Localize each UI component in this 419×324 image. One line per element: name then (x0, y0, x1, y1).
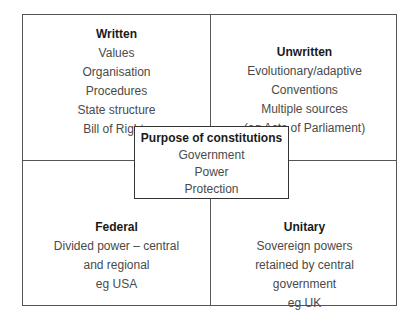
quadrant-unitary-line-3: government (217, 275, 392, 294)
quadrant-written-line-4: State structure (29, 101, 204, 120)
quadrant-unitary-heading: Unitary (217, 218, 392, 237)
quadrant-federal-line-2: and regional (29, 256, 204, 275)
center-box-heading: Purpose of constitutions (135, 130, 288, 147)
quadrant-unwritten-heading: Unwritten (217, 43, 392, 62)
quadrant-unwritten-line-3: Multiple sources (217, 100, 392, 119)
center-box-line-1: Government (135, 147, 288, 164)
quadrant-unitary-line-1: Sovereign powers (217, 237, 392, 256)
constitutions-diagram: Written Values Organisation Procedures S… (22, 14, 397, 306)
quadrant-written-line-3: Procedures (29, 82, 204, 101)
quadrant-federal-line-1: Divided power – central (29, 237, 204, 256)
quadrant-written-line-2: Organisation (29, 63, 204, 82)
quadrant-unitary-line-2: retained by central (217, 256, 392, 275)
center-box-line-3: Protection (135, 181, 288, 198)
quadrant-unwritten-line-2: Conventions (217, 81, 392, 100)
quadrant-unwritten-line-1: Evolutionary/adaptive (217, 62, 392, 81)
quadrant-written-heading: Written (29, 25, 204, 44)
quadrant-written-line-1: Values (29, 44, 204, 63)
center-box-purpose-of-constitutions: Purpose of constitutions Government Powe… (134, 126, 289, 199)
center-box-line-2: Power (135, 164, 288, 181)
quadrant-unitary-line-4: eg UK (217, 294, 392, 313)
quadrant-federal-line-3: eg USA (29, 275, 204, 294)
quadrant-federal-heading: Federal (29, 218, 204, 237)
